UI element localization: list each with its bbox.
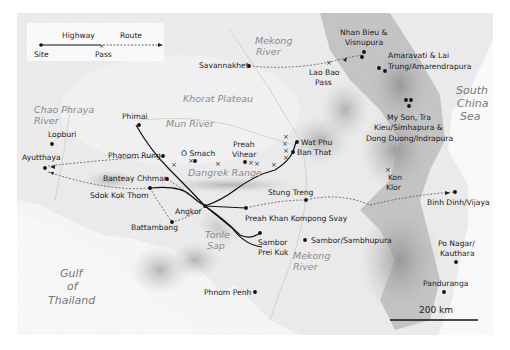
site-dot-nhan-bieu <box>362 50 366 54</box>
label-gulf-3: Thailand <box>48 294 96 307</box>
map-canvas: Highway Route × Site Pass × × × <box>0 0 510 350</box>
label-ayutthaya: Ayutthaya <box>22 153 61 162</box>
label-nhan-bieu-1: Nhan Bieu & <box>340 28 388 37</box>
label-myson-3: Dong Duong/Indrapura <box>366 134 453 143</box>
label-stung-treng: Stung Treng <box>268 188 314 197</box>
site-dot-sdok-kok-thom <box>148 186 152 190</box>
label-battambang: Battambang <box>131 223 178 232</box>
label-scs-2: China <box>457 97 489 110</box>
label-gulf-1: Gulf <box>60 267 85 280</box>
label-po-nagar-1: Po Nagar/ <box>438 239 475 248</box>
label-mekong-north-2: River <box>256 46 282 57</box>
site-dot-lai-trung <box>383 69 387 73</box>
label-tonle-sap-1: Tonle <box>205 229 230 240</box>
label-scs-3: Sea <box>460 110 481 123</box>
pass-cross-icon: × <box>248 159 254 167</box>
label-po-nagar-2: Kauthara <box>440 249 475 258</box>
site-dot-ayutthaya <box>43 166 47 170</box>
label-banteay-chhmar: Banteay Chhmar <box>103 174 168 183</box>
site-dot-visnupura <box>360 55 364 59</box>
label-chao-phraya-1: Chao Phraya <box>34 104 94 115</box>
label-savannakhet: Savannakhet <box>199 61 249 70</box>
site-dot-sambor-sambhupura <box>303 238 307 242</box>
label-lao-bao-2: Pass <box>315 78 332 87</box>
site-dot-dong-duong <box>407 104 411 108</box>
label-amaravati-1: Amaravati & Lai <box>388 51 449 60</box>
label-lopburi: Lopburi <box>48 130 76 139</box>
site-dot-my-son <box>404 98 408 102</box>
label-phanom-rung: Phanom Rung <box>108 151 161 160</box>
label-nhan-bieu-2: Visnupura <box>345 38 383 47</box>
label-kon-klor-2: Klor <box>386 183 402 192</box>
label-mekong-south-2: River <box>293 261 319 272</box>
site-dot-sambor-prei-kuk <box>258 231 262 235</box>
legend-site-label: Site <box>34 50 49 59</box>
label-tonle-sap-2: Sap <box>207 240 225 251</box>
pass-cross-icon: × <box>171 161 177 169</box>
label-o-smach: O Smach <box>181 149 215 158</box>
pass-cross-icon: × <box>188 157 194 165</box>
site-dot-po-nagar <box>454 260 458 264</box>
label-sambor-prei-kuk-2: Prei Kuk <box>258 248 289 257</box>
label-amaravati-2: Trung/Amarendrapura <box>387 62 471 71</box>
pass-cross-icon: × <box>326 59 332 67</box>
site-dot-phanom-rung <box>161 154 165 158</box>
site-dot-tra-kieu <box>409 98 413 102</box>
site-dot-preah-khan <box>244 206 248 210</box>
pass-cross-icon: × <box>99 42 104 49</box>
label-dangrek: Dangrek Range <box>188 167 262 178</box>
legend: Highway Route × Site Pass <box>27 23 164 61</box>
label-mun-river: Mun River <box>166 118 215 129</box>
label-mekong-south-1: Mekong <box>293 250 330 261</box>
site-dot-lopburi <box>50 142 54 146</box>
site-dot-angkor <box>203 204 207 208</box>
label-mekong-north-1: Mekong <box>255 35 292 46</box>
label-ban-that: Ban That <box>297 148 331 157</box>
site-dot-stung-treng <box>304 198 308 202</box>
site-dot-o-smach <box>193 159 197 163</box>
label-phimai: Phimai <box>122 112 148 121</box>
label-sdok-kok-thom: Sdok Kok Thom <box>90 191 149 200</box>
site-dot-phnom-penh <box>253 290 257 294</box>
label-scs-1: South <box>456 84 488 97</box>
label-panduranga: Panduranga <box>423 279 468 288</box>
site-dot-panduranga <box>442 290 446 294</box>
label-chao-phraya-2: River <box>34 115 60 126</box>
legend-highway-label: Highway <box>62 31 95 40</box>
label-wat-phu: Wat Phu <box>301 138 332 147</box>
site-dot-binh-dinh <box>453 190 457 194</box>
label-khorat: Khorat Plateau <box>183 93 253 104</box>
scale-bar-label: 200 km <box>419 305 453 315</box>
legend-route-label: Route <box>120 31 142 40</box>
label-lao-bao-1: Lao Bao <box>309 68 340 77</box>
site-dot-ban-that <box>291 150 295 154</box>
label-myson-1: My Son, Tra <box>387 113 431 122</box>
site-dot-phimai <box>137 123 141 127</box>
label-angkor: Angkor <box>175 207 203 216</box>
label-binh-dinh: Binh Dinh/Vijaya <box>427 198 490 207</box>
legend-pass-label: Pass <box>95 50 112 59</box>
label-preah-vihear-2: Vihear <box>232 150 257 159</box>
label-preah-khan: Preah Khan Kompong Svay <box>245 214 348 223</box>
label-sambor-sambhupura: Sambor/Sambhupura <box>311 236 392 245</box>
site-dot-icon <box>39 43 43 47</box>
pass-cross-icon: × <box>283 154 289 162</box>
site-dot-amaravati <box>377 66 381 70</box>
site-dot-preah-vihear <box>243 160 247 164</box>
label-kon-klor-1: Kon <box>388 173 402 182</box>
label-preah-vihear-1: Preah <box>233 140 255 149</box>
label-phnom-penh: Phnom Penh <box>204 288 251 297</box>
label-myson-2: Kieu/Simhapura & <box>374 123 443 132</box>
site-dot-wat-phu <box>295 140 299 144</box>
pass-cross-icon: × <box>271 161 277 169</box>
label-sambor-prei-kuk-1: Sambor <box>258 238 288 247</box>
